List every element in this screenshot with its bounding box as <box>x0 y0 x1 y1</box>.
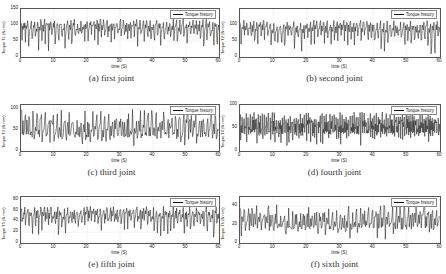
x-tick-label: 20 <box>81 244 91 249</box>
panel-sixth-joint: Torque history020400102030405060time (S)… <box>223 184 446 274</box>
legend: Torque history <box>170 198 216 207</box>
legend-line-swatch <box>394 110 404 111</box>
legend-line-swatch <box>394 202 404 203</box>
y-tick-label: 50 <box>6 126 18 131</box>
panel-third-joint: Torque history0501000102030405060time (S… <box>0 92 223 183</box>
x-tick-label: 50 <box>401 152 411 157</box>
x-tick-label: 30 <box>114 244 124 249</box>
x-tick-label: 40 <box>367 152 377 157</box>
x-tick-label: 0 <box>15 152 25 157</box>
x-tick-label: 0 <box>234 58 244 63</box>
x-axis-label: time (S) <box>20 250 218 255</box>
x-tick-label: 0 <box>15 244 25 249</box>
x-tick-label: 60 <box>213 58 223 63</box>
panel-first-joint: Torque history0501001500102030405060time… <box>0 0 223 91</box>
x-tick-label: 0 <box>15 58 25 63</box>
y-axis-label: Torque T6 (N·mm) <box>220 207 225 240</box>
x-tick-label: 40 <box>367 244 377 249</box>
x-tick-label: 10 <box>267 58 277 63</box>
x-axis-label: time (S) <box>239 158 439 163</box>
x-tick-label: 10 <box>267 244 277 249</box>
x-tick-label: 60 <box>213 244 223 249</box>
y-axis-label: Torque T5 (N·mm) <box>1 207 6 240</box>
legend-label: Torque history <box>185 200 213 205</box>
legend: Torque history <box>391 198 437 207</box>
legend-label: Torque history <box>185 12 213 17</box>
legend-label: Torque history <box>185 108 213 113</box>
x-tick-label: 30 <box>334 152 344 157</box>
x-tick-label: 20 <box>81 58 91 63</box>
y-axis-label: Torque T1 (N·mm) <box>1 21 6 54</box>
x-tick-label: 50 <box>180 152 190 157</box>
subfigure-caption: (c) third joint <box>0 167 223 177</box>
legend-label: Torque history <box>406 200 434 205</box>
subfigure-caption: (d) fourth joint <box>223 167 446 177</box>
x-tick-label: 0 <box>234 244 244 249</box>
y-axis-label: Torque T4 (N·mm) <box>220 115 225 148</box>
legend: Torque history <box>391 10 437 19</box>
x-tick-label: 60 <box>434 152 444 157</box>
legend-label: Torque history <box>406 108 434 113</box>
y-tick-label: 40 <box>225 202 237 207</box>
legend: Torque history <box>391 106 437 115</box>
y-tick-label: 100 <box>225 21 237 26</box>
x-axis-label: time (S) <box>20 64 218 69</box>
x-tick-label: 30 <box>114 152 124 157</box>
subfigure-caption: (a) first joint <box>0 73 223 83</box>
y-tick-label: 50 <box>225 124 237 129</box>
y-tick-label: 100 <box>225 101 237 106</box>
y-tick-label: 50 <box>225 37 237 42</box>
x-tick-label: 30 <box>334 58 344 63</box>
x-tick-label: 50 <box>401 58 411 63</box>
legend-line-swatch <box>173 110 183 111</box>
x-tick-label: 10 <box>48 152 58 157</box>
legend-line-swatch <box>173 202 183 203</box>
x-tick-label: 60 <box>434 58 444 63</box>
x-tick-label: 50 <box>401 244 411 249</box>
x-tick-label: 60 <box>434 244 444 249</box>
y-axis-label: Torque T3 (N·mm) <box>1 115 6 148</box>
x-tick-label: 20 <box>301 58 311 63</box>
x-tick-label: 40 <box>147 244 157 249</box>
y-tick-label: 150 <box>6 5 18 10</box>
x-tick-label: 30 <box>334 244 344 249</box>
y-tick-label: 40 <box>6 217 18 222</box>
y-tick-label: 60 <box>6 207 18 212</box>
legend-line-swatch <box>173 14 183 15</box>
y-tick-label: 100 <box>6 105 18 110</box>
x-tick-label: 10 <box>267 152 277 157</box>
y-tick-label: 50 <box>6 37 18 42</box>
x-tick-label: 40 <box>147 58 157 63</box>
subfigure-caption: (b) second joint <box>223 73 446 83</box>
x-tick-label: 60 <box>213 152 223 157</box>
x-tick-label: 30 <box>114 58 124 63</box>
x-tick-label: 20 <box>301 152 311 157</box>
panel-fourth-joint: Torque history0501000102030405060time (S… <box>223 92 446 183</box>
panel-second-joint: Torque history0501000102030405060time (S… <box>223 0 446 91</box>
x-tick-label: 40 <box>367 58 377 63</box>
legend: Torque history <box>170 10 216 19</box>
y-axis-label: Torque T2 (N·mm) <box>220 21 225 54</box>
x-tick-label: 40 <box>147 152 157 157</box>
subfigure-caption: (e) fifth joint <box>0 259 223 269</box>
x-tick-label: 20 <box>301 244 311 249</box>
legend-line-swatch <box>394 14 404 15</box>
legend-label: Torque history <box>406 12 434 17</box>
subfigure-caption: (f) sixth joint <box>223 259 446 269</box>
x-tick-label: 20 <box>81 152 91 157</box>
panel-fifth-joint: Torque history0204060800102030405060time… <box>0 184 223 274</box>
x-axis-label: time (S) <box>239 250 439 255</box>
x-tick-label: 0 <box>234 152 244 157</box>
y-tick-label: 80 <box>6 196 18 201</box>
x-tick-label: 10 <box>48 58 58 63</box>
x-tick-label: 10 <box>48 244 58 249</box>
x-axis-label: time (S) <box>239 64 439 69</box>
x-axis-label: time (S) <box>20 158 218 163</box>
y-tick-label: 20 <box>6 228 18 233</box>
legend: Torque history <box>170 106 216 115</box>
y-tick-label: 100 <box>6 21 18 26</box>
x-tick-label: 50 <box>180 244 190 249</box>
x-tick-label: 50 <box>180 58 190 63</box>
y-tick-label: 20 <box>225 221 237 226</box>
